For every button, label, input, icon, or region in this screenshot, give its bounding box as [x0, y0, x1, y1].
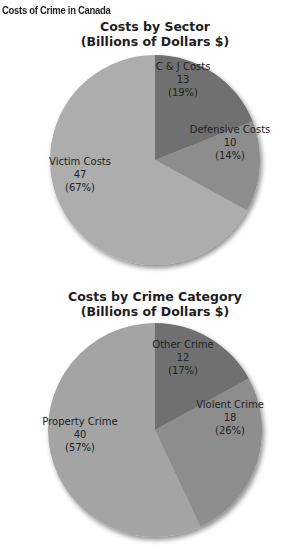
pie-chart-crime-category: Other Crime12(17%)Violent Crime18(26%)Pr…	[0, 0, 282, 554]
